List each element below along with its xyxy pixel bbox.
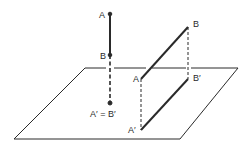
label-projection-left: A′ = B′ — [90, 109, 116, 119]
label-b-left: B — [100, 51, 106, 61]
point-b-left — [108, 53, 112, 57]
point-a-left — [108, 12, 112, 16]
parallel-segment — [141, 27, 188, 130]
point-projection-left — [108, 101, 112, 105]
perpendicular-segment — [108, 12, 112, 105]
projection-diagram: A B A′ = B′ B A B′ A′ — [0, 0, 252, 148]
plane — [14, 68, 238, 139]
label-a-right: A — [133, 74, 139, 84]
label-b-prime-right: B′ — [193, 73, 201, 83]
label-a-prime-right: A′ — [128, 125, 136, 135]
label-a-left: A — [99, 10, 105, 20]
label-b-right: B — [193, 19, 199, 29]
